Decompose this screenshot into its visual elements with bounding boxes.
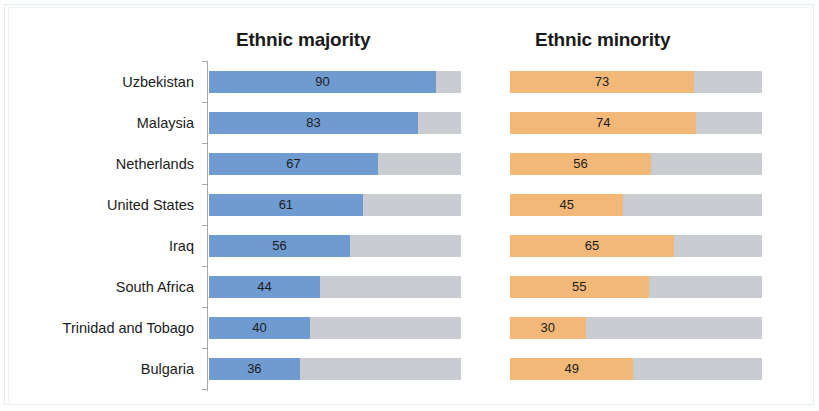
bar-track-remainder: 56 bbox=[209, 235, 461, 257]
bar-row: 45 bbox=[510, 185, 762, 226]
bar-fill: 45 bbox=[510, 194, 623, 216]
bar-row: 44 bbox=[209, 267, 461, 308]
axis-tick bbox=[202, 225, 207, 226]
bar-fill: 40 bbox=[209, 317, 310, 339]
bar-track-remainder: 90 bbox=[209, 71, 461, 93]
bar-row: 83 bbox=[209, 103, 461, 144]
bar-track-remainder: 61 bbox=[209, 194, 461, 216]
bar-fill: 61 bbox=[209, 194, 363, 216]
bar-row: 90 bbox=[209, 62, 461, 103]
axis-tick bbox=[202, 61, 207, 62]
category-label: Iraq bbox=[169, 226, 194, 267]
axis-tick bbox=[202, 266, 207, 267]
bar-track-remainder: 49 bbox=[510, 358, 762, 380]
bar-row: 65 bbox=[510, 226, 762, 267]
chart-figure: Ethnic majority Ethnic minority Uzbekist… bbox=[0, 0, 819, 411]
axis-tick bbox=[202, 184, 207, 185]
bar-value-label: 49 bbox=[510, 358, 633, 380]
axis-tick bbox=[202, 143, 207, 144]
bar-value-label: 83 bbox=[209, 112, 418, 134]
bar-fill: 49 bbox=[510, 358, 633, 380]
axis-tick bbox=[202, 389, 207, 390]
bar-fill: 56 bbox=[209, 235, 350, 257]
bar-row: 56 bbox=[209, 226, 461, 267]
bar-fill: 90 bbox=[209, 71, 436, 93]
axis-tick bbox=[202, 307, 207, 308]
bar-fill: 44 bbox=[209, 276, 320, 298]
bar-value-label: 56 bbox=[510, 153, 651, 175]
bar-track-remainder: 73 bbox=[510, 71, 762, 93]
bar-row: 73 bbox=[510, 62, 762, 103]
axis-tick bbox=[202, 102, 207, 103]
plot-area-ethnic-minority: 7374564565553049 bbox=[510, 62, 762, 390]
bar-row: 49 bbox=[510, 349, 762, 390]
bar-fill: 67 bbox=[209, 153, 378, 175]
bar-row: 30 bbox=[510, 308, 762, 349]
bar-track-remainder: 67 bbox=[209, 153, 461, 175]
bar-row: 56 bbox=[510, 144, 762, 185]
category-label: United States bbox=[107, 185, 194, 226]
panel-title-ethnic-majority: Ethnic majority bbox=[236, 29, 370, 51]
bar-track-remainder: 65 bbox=[510, 235, 762, 257]
bar-value-label: 73 bbox=[510, 71, 694, 93]
bar-value-label: 74 bbox=[510, 112, 696, 134]
bar-row: 74 bbox=[510, 103, 762, 144]
bar-fill: 36 bbox=[209, 358, 300, 380]
bar-fill: 74 bbox=[510, 112, 696, 134]
bar-track-remainder: 30 bbox=[510, 317, 762, 339]
bar-fill: 83 bbox=[209, 112, 418, 134]
bar-value-label: 30 bbox=[510, 317, 586, 339]
bar-row: 61 bbox=[209, 185, 461, 226]
bar-track-remainder: 56 bbox=[510, 153, 762, 175]
bar-track-remainder: 74 bbox=[510, 112, 762, 134]
plot-area-ethnic-majority: 9083676156444036 bbox=[209, 62, 461, 390]
bar-fill: 30 bbox=[510, 317, 586, 339]
bar-value-label: 44 bbox=[209, 276, 320, 298]
bar-value-label: 56 bbox=[209, 235, 350, 257]
bar-row: 36 bbox=[209, 349, 461, 390]
bar-track-remainder: 44 bbox=[209, 276, 461, 298]
bar-value-label: 55 bbox=[510, 276, 649, 298]
category-axis-labels: UzbekistanMalaysiaNetherlandsUnited Stat… bbox=[20, 62, 202, 390]
bar-value-label: 36 bbox=[209, 358, 300, 380]
category-label: Trinidad and Tobago bbox=[63, 308, 194, 349]
panel-title-ethnic-minority: Ethnic minority bbox=[535, 29, 670, 51]
category-label: Bulgaria bbox=[141, 349, 194, 390]
category-label: Uzbekistan bbox=[122, 62, 194, 103]
bar-value-label: 61 bbox=[209, 194, 363, 216]
bar-fill: 65 bbox=[510, 235, 674, 257]
category-label: Netherlands bbox=[116, 144, 194, 185]
bar-track-remainder: 36 bbox=[209, 358, 461, 380]
bar-fill: 73 bbox=[510, 71, 694, 93]
bar-value-label: 90 bbox=[209, 71, 436, 93]
axis-tick bbox=[202, 348, 207, 349]
bar-value-label: 67 bbox=[209, 153, 378, 175]
bar-value-label: 65 bbox=[510, 235, 674, 257]
bar-fill: 56 bbox=[510, 153, 651, 175]
bar-track-remainder: 55 bbox=[510, 276, 762, 298]
bar-track-remainder: 83 bbox=[209, 112, 461, 134]
bar-row: 67 bbox=[209, 144, 461, 185]
bar-track-remainder: 45 bbox=[510, 194, 762, 216]
bar-value-label: 40 bbox=[209, 317, 310, 339]
bar-row: 55 bbox=[510, 267, 762, 308]
bar-row: 40 bbox=[209, 308, 461, 349]
bar-fill: 55 bbox=[510, 276, 649, 298]
category-label: South Africa bbox=[116, 267, 194, 308]
category-label: Malaysia bbox=[137, 103, 194, 144]
bar-value-label: 45 bbox=[510, 194, 623, 216]
category-axis-line bbox=[207, 61, 208, 391]
bar-track-remainder: 40 bbox=[209, 317, 461, 339]
